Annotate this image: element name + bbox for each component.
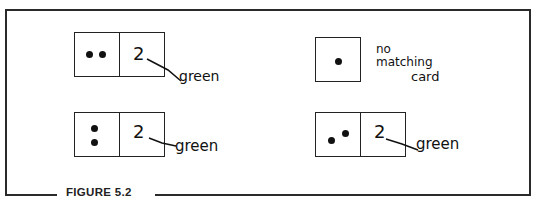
pointer-line: [386, 139, 418, 150]
pointer-line: [149, 138, 176, 146]
pointer-line: [147, 59, 181, 81]
pointer-lines: [0, 0, 537, 207]
